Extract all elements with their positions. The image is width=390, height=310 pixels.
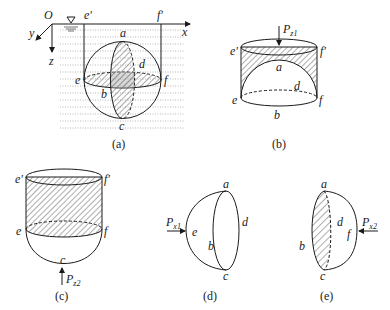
label-c: c: [60, 253, 66, 267]
label-d: d: [337, 215, 344, 229]
label-b: b: [208, 239, 214, 253]
caption-b: (b): [272, 137, 286, 151]
label-a: a: [223, 177, 229, 191]
label-e-prime: e': [84, 8, 92, 22]
label-b: b: [299, 239, 305, 253]
label-d: d: [242, 215, 249, 229]
caption-c: (c): [55, 289, 68, 303]
y-axis-label: y: [28, 26, 35, 40]
label-e-prime: e': [230, 44, 238, 58]
force-label-pz2: Pz2: [65, 272, 80, 288]
caption-a: (a): [112, 137, 125, 151]
force-label-pz1: Pz1: [282, 22, 297, 38]
label-a: a: [120, 26, 126, 40]
origin-label: O: [44, 8, 53, 22]
panel-c: Pz2 e' f' e f c (c): [15, 169, 110, 303]
label-e: e: [192, 225, 198, 239]
label-e: e: [232, 93, 238, 107]
label-e: e: [16, 224, 22, 238]
panel-b: Pz1 e' f' a d e f b (b): [230, 22, 326, 151]
base-front: [241, 98, 317, 106]
label-f: f: [164, 73, 169, 87]
label-f: f: [319, 93, 324, 107]
x-axis-label: x: [181, 25, 188, 39]
label-f-prime: f': [320, 44, 326, 58]
label-f: f: [347, 227, 352, 241]
z-axis-label: z: [48, 54, 54, 68]
label-f-prime: f': [104, 172, 110, 186]
label-a: a: [321, 177, 327, 191]
caption-d: (d): [203, 289, 217, 303]
panel-d: Px1 a e d b c (d): [165, 177, 249, 303]
label-b: b: [101, 87, 107, 101]
label-f-prime: f': [157, 8, 163, 22]
label-e-prime: e': [15, 172, 23, 186]
label-b: b: [274, 108, 280, 122]
label-a: a: [276, 60, 282, 74]
cut-section: [213, 191, 239, 270]
force-label-px2: Px2: [361, 215, 377, 231]
label-c: c: [320, 269, 326, 283]
label-d: d: [139, 57, 146, 71]
base-back: [241, 90, 317, 98]
figure-canvas: O x y z e' f' a b c d e f (a): [0, 0, 390, 310]
caption-e: (e): [320, 289, 333, 303]
label-e: e: [75, 73, 81, 87]
label-c: c: [119, 119, 125, 133]
y-axis: [36, 24, 52, 40]
force-label-px1: Px1: [165, 215, 181, 231]
label-f: f: [104, 224, 109, 238]
label-d: d: [294, 79, 301, 93]
panel-a: O x y z e' f' a b c d e f (a): [28, 8, 190, 151]
panel-e: Px2 a d f b c (e): [299, 177, 378, 303]
label-c: c: [223, 269, 229, 283]
